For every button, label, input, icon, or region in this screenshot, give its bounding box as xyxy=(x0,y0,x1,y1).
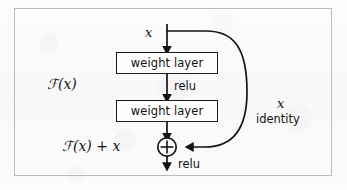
weight-layer-box-2: weight layer xyxy=(116,100,218,122)
relu-label-bottom: relu xyxy=(178,157,200,171)
figure-container: weight layer weight layer x ℱ(x) relu ℱ(… xyxy=(0,0,347,190)
identity-label: identity xyxy=(256,112,300,126)
input-x-label: x xyxy=(145,25,152,40)
weight-layer-box-1: weight layer xyxy=(116,52,218,74)
diagram-connectors xyxy=(0,0,347,190)
shortcut-x-label: x xyxy=(277,96,284,111)
weight-layer-1-label: weight layer xyxy=(131,56,203,70)
residual-function-label: ℱ(x) xyxy=(47,76,77,92)
weight-layer-2-label: weight layer xyxy=(131,104,203,118)
output-sum-label: ℱ(x) + x xyxy=(62,138,120,154)
relu-label-middle: relu xyxy=(174,79,196,93)
